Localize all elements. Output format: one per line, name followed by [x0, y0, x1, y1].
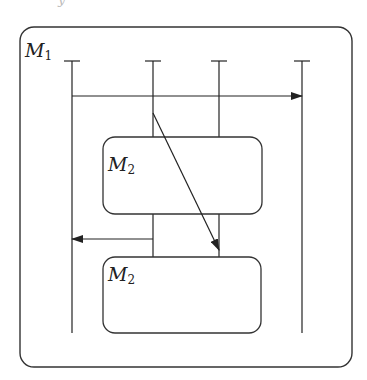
outer-module-label: M1 [25, 41, 52, 62]
inner-module-label-2: M2 [108, 265, 135, 286]
sequence-diagram [0, 0, 367, 380]
inner-module-label-1: M2 [108, 155, 135, 176]
